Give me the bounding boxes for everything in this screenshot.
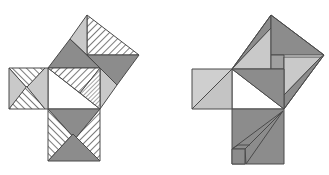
right-hyp-piece-light-left <box>232 28 271 69</box>
right-short-leg-square <box>192 69 232 109</box>
right-figure <box>192 15 324 164</box>
right-long-leg-square <box>232 109 284 164</box>
left-short-leg-square <box>9 68 48 109</box>
left-figure <box>9 15 139 161</box>
right-big-small-box <box>232 149 245 164</box>
left-long-leg-square <box>48 109 100 161</box>
right-hyp-piece-small-square <box>271 55 284 69</box>
left-hyp-piece-hatched-top <box>87 15 139 55</box>
pythagorean-dissection-diagram <box>0 0 329 175</box>
